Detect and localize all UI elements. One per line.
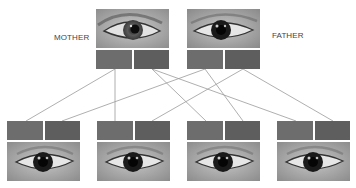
line-father-gene1-child1: [62, 69, 205, 121]
eye-icon: [187, 142, 260, 181]
father-eye-image: [187, 9, 260, 48]
child-3-genes: [187, 121, 260, 140]
line-father-gene1-child3: [205, 69, 243, 121]
child-4-genes: [277, 121, 350, 140]
child-2-genes: [97, 121, 170, 140]
child-1-gene-1: [7, 121, 43, 140]
child-4-eye-image: [277, 142, 350, 181]
eye-icon: [97, 142, 170, 181]
child-1-genes: [7, 121, 80, 140]
eye-icon: [7, 142, 80, 181]
mother-eye-image: [96, 9, 169, 48]
child-3-gene-1: [187, 121, 223, 140]
mother-gene-1: [96, 50, 132, 69]
line-mother-gene1-child1: [26, 69, 115, 121]
mother-genes: [96, 50, 169, 69]
father-label: FATHER: [272, 31, 304, 40]
eye-icon: [96, 9, 169, 48]
child-2-gene-1: [97, 121, 133, 140]
child-3-eye-image: [187, 142, 260, 181]
child-4-gene-1: [277, 121, 313, 140]
father-gene-1: [187, 50, 223, 69]
child-4-gene-2: [315, 121, 351, 140]
mother-label: MOTHER: [54, 33, 89, 42]
line-father-gene2-child4: [243, 69, 333, 121]
father-genes: [187, 50, 260, 69]
mother-gene-2: [134, 50, 170, 69]
eye-icon: [187, 9, 260, 48]
father-gene-2: [225, 50, 261, 69]
child-2-gene-2: [135, 121, 171, 140]
child-1-gene-2: [45, 121, 81, 140]
child-1-eye-image: [7, 142, 80, 181]
child-2-eye-image: [97, 142, 170, 181]
child-3-gene-2: [225, 121, 261, 140]
eye-icon: [277, 142, 350, 181]
